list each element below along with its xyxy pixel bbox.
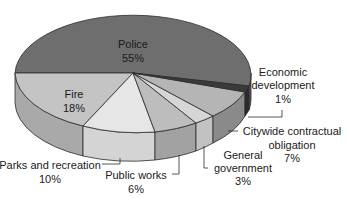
label-economic-pct: 1% <box>275 93 291 105</box>
leader-economic <box>248 110 282 117</box>
label-fire-name: Fire <box>65 88 84 100</box>
label-economic-name-2: development <box>252 79 315 91</box>
leader-general <box>204 146 208 168</box>
leader-public-works <box>172 155 179 174</box>
label-fire-pct: 18% <box>63 102 85 114</box>
label-police-name: Police <box>118 38 148 50</box>
label-citywide-name-2: obligation <box>268 139 315 151</box>
pie-chart: Police 55% Fire 18% Parks and recreation… <box>0 0 346 198</box>
label-general-name-2: government <box>214 162 272 174</box>
label-parks-name: Parks and recreation <box>0 159 101 171</box>
label-parks-pct: 10% <box>39 173 61 185</box>
label-citywide-pct: 7% <box>284 152 300 164</box>
label-public-works-name: Public works <box>105 169 167 181</box>
label-public-works-pct: 6% <box>128 183 144 195</box>
label-citywide-name-1: Citywide contractual <box>243 125 341 137</box>
label-police-pct: 55% <box>122 52 144 64</box>
label-general-name-1: General <box>223 149 262 161</box>
label-economic-name-1: Economic <box>259 66 308 78</box>
label-general-pct: 3% <box>235 175 251 187</box>
